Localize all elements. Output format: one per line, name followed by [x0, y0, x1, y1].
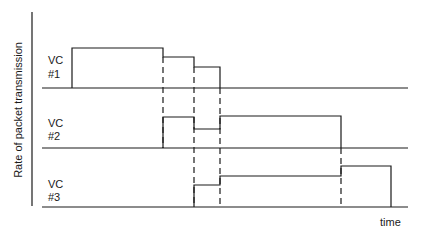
vc3-label: VC #3	[48, 178, 63, 203]
transmission-diagram: Rate of packet transmission VC #1 VC #2 …	[0, 0, 423, 244]
vc2-label: VC #2	[48, 117, 63, 142]
svg-text:VC: VC	[48, 178, 63, 190]
vc2-rate-trace	[163, 116, 341, 148]
y-axis-label: Rate of packet transmission	[12, 42, 24, 178]
svg-text:#2: #2	[48, 130, 60, 142]
svg-text:VC: VC	[48, 54, 63, 66]
svg-text:VC: VC	[48, 117, 63, 129]
svg-text:#1: #1	[48, 68, 60, 80]
vc1-rate-trace	[72, 48, 220, 88]
vc1-label: VC #1	[48, 54, 63, 80]
x-axis-label: time	[380, 216, 401, 228]
vc3-rate-trace	[194, 166, 391, 207]
svg-text:#3: #3	[48, 191, 60, 203]
